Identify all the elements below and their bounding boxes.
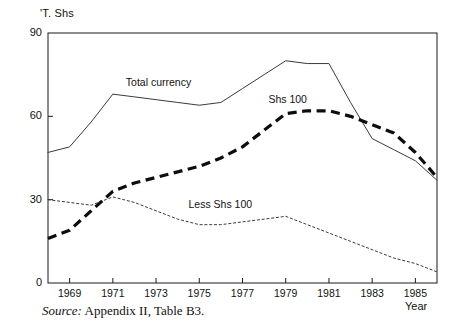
x-axis-tick-label: 1979 (268, 287, 304, 299)
series-line-total-currency (48, 61, 437, 180)
x-axis-tick-label: 1985 (397, 287, 433, 299)
source-note: Source: Appendix II, Table B3. (42, 303, 204, 319)
source-note-text: Appendix II, Table B3. (85, 303, 205, 318)
y-axis-ticks (48, 116, 53, 199)
y-axis-tick-label: 90 (18, 26, 42, 38)
x-axis-tick-label: 1971 (95, 287, 131, 299)
x-axis-tick-label: 1975 (181, 287, 217, 299)
y-axis-tick-label: 30 (18, 193, 42, 205)
plot-frame (48, 33, 437, 283)
x-axis-tick-label: 1973 (138, 287, 174, 299)
y-axis-tick-label: 0 (18, 276, 42, 288)
x-axis-tick-label: 1977 (225, 287, 261, 299)
annotation-less-shs-100: Less Shs 100 (188, 198, 252, 210)
annotation-shs-100: Shs 100 (268, 93, 307, 105)
y-axis-tick-label: 60 (18, 109, 42, 121)
currency-line-chart-figure: 'T. Shs 0306090 196919711973197519771979… (0, 0, 460, 336)
annotation-total-currency: Total currency (126, 76, 191, 88)
x-axis-tick-label: 1981 (311, 287, 347, 299)
x-axis-tick-label: 1983 (354, 287, 390, 299)
source-note-label: Source: (42, 303, 82, 318)
x-axis-title: Year (405, 300, 427, 312)
plot-area (0, 0, 460, 336)
x-axis-ticks (70, 278, 416, 283)
series-line-shs-100 (48, 111, 437, 239)
x-axis-tick-label: 1969 (52, 287, 88, 299)
